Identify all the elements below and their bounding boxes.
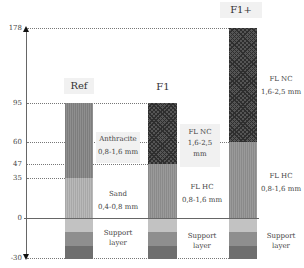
label-support-f1: Support layer: [178, 231, 226, 251]
tick-47: 47: [0, 160, 22, 168]
tick-60: 60: [0, 138, 22, 146]
layer-support-bottom: [148, 246, 177, 259]
label-f1plus-nc-name: FL NC: [258, 73, 304, 86]
label-support-line1: Support: [258, 231, 304, 241]
label-sand-name: Sand: [96, 188, 140, 201]
layer-anthracite: [65, 103, 93, 178]
label-f1-nc-size: 1,6-2,5: [180, 138, 220, 149]
guide-line-minus30: [27, 258, 257, 259]
label-f1plus-hc-name: FL HC: [258, 170, 304, 183]
layer-support-top: [148, 219, 177, 232]
label-anthracite: Anthracite 0,8-1,6 mm: [96, 132, 140, 163]
tick-0: 0: [0, 214, 22, 222]
layer-support-top: [65, 219, 93, 232]
label-f1plus-nc-size: 1,6-2,5 mm: [258, 86, 304, 99]
label-anthracite-size: 0,8-1,6 mm: [96, 146, 140, 159]
layer-sand: [65, 178, 93, 218]
tick-178: 178: [0, 24, 22, 32]
label-f1-fl-hc: FL HC 0,8-1,6 mm: [178, 181, 226, 207]
layer-support-mid: [229, 232, 257, 246]
column-title-f1plus: F1+: [220, 2, 262, 18]
label-f1plus-fl-hc: FL HC 0,8-1,6 mm: [258, 170, 304, 196]
column-title-f1: F1: [150, 81, 176, 92]
layer-support-mid: [148, 232, 177, 246]
label-support-ref: Support layer: [96, 228, 140, 248]
label-f1-nc-unit: mm: [180, 149, 220, 160]
tick-minus30: -30: [0, 254, 22, 262]
label-f1plus-fl-nc: FL NC 1,6-2,5 mm: [258, 73, 304, 99]
label-f1-nc-name: FL NC: [180, 127, 220, 138]
column-title-ref: Ref: [64, 78, 94, 94]
axis-arrow-up-icon: [23, 26, 29, 32]
label-f1-fl-nc: FL NC 1,6-2,5 mm: [180, 124, 220, 167]
guide-line-35: [27, 178, 65, 179]
label-f1plus-hc-size: 0,8-1,6 mm: [258, 183, 304, 196]
label-f1-hc-name: FL HC: [178, 181, 226, 194]
guide-line-178: [27, 28, 229, 29]
tick-35: 35: [0, 174, 22, 182]
axis-arrow-down-icon: [23, 254, 29, 260]
label-support-f1plus: Support layer: [258, 231, 304, 251]
layer-support-top: [229, 219, 257, 232]
label-anthracite-name: Anthracite: [96, 133, 140, 146]
layer-fl-nc: [229, 28, 257, 142]
baseline-0: [24, 218, 259, 219]
layer-fl-nc: [148, 103, 177, 164]
layer-support-bottom: [229, 246, 257, 259]
label-support-line1: Support: [96, 228, 140, 238]
tick-95: 95: [0, 99, 22, 107]
layer-fl-hc: [229, 142, 257, 218]
label-support-line2: layer: [178, 241, 226, 251]
label-support-line2: layer: [258, 241, 304, 251]
label-support-line2: layer: [96, 238, 140, 248]
label-sand-size: 0,4-0,8 mm: [96, 201, 140, 214]
layer-fl-hc: [148, 164, 177, 218]
layer-support-bottom: [65, 246, 93, 259]
y-axis: [26, 28, 27, 258]
label-sand: Sand 0,4-0,8 mm: [96, 188, 140, 214]
label-support-line1: Support: [178, 231, 226, 241]
layer-support-mid: [65, 232, 93, 246]
label-f1-hc-size: 0,8-1,6 mm: [178, 194, 226, 207]
